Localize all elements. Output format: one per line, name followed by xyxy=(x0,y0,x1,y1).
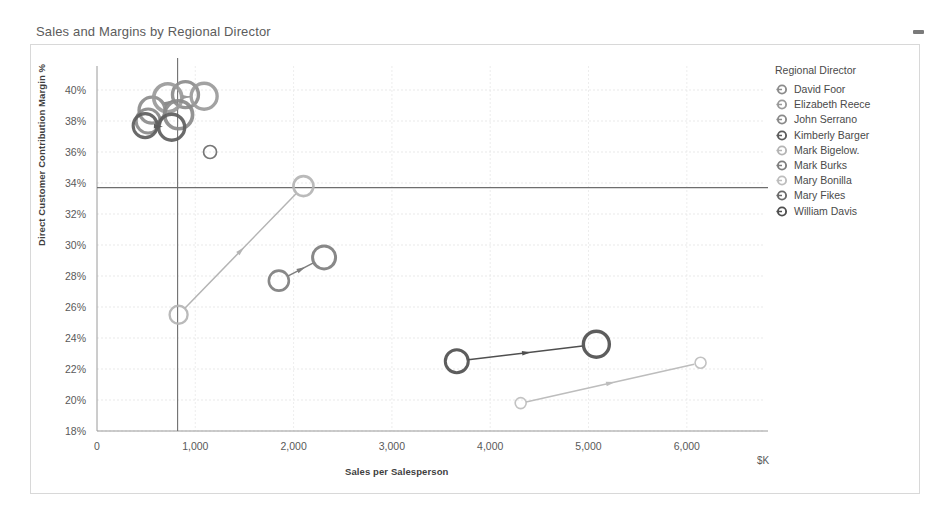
y-axis-tick-label: 20% xyxy=(54,394,86,406)
legend-item-label: David Foor xyxy=(794,83,845,96)
x-axis-tick-label: 2,000 xyxy=(280,440,306,452)
legend-item-label: Kimberly Barger xyxy=(794,129,869,142)
legend-item[interactable]: Elizabeth Reece xyxy=(775,97,915,112)
y-axis-tick-label: 18% xyxy=(54,425,86,437)
legend-item[interactable]: Mark Bigelow. xyxy=(775,143,915,158)
legend: Regional Director David FoorElizabeth Re… xyxy=(775,64,915,219)
x-axis-tick-label: 0 xyxy=(94,440,100,452)
y-axis-tick-label: 40% xyxy=(54,84,86,96)
legend-marker-icon xyxy=(775,113,788,126)
y-axis-tick-label: 26% xyxy=(54,301,86,313)
visualization-container: Sales and Margins by Regional Director 1… xyxy=(0,0,936,531)
x-axis-unit-label: $K xyxy=(757,455,769,466)
legend-item-label: Mark Bigelow. xyxy=(794,144,859,157)
legend-item[interactable]: David Foor xyxy=(775,82,915,97)
y-axis-tick-label: 36% xyxy=(54,146,86,158)
legend-item-label: Mary Fikes xyxy=(794,189,845,202)
legend-item-label: John Serrano xyxy=(794,113,857,126)
legend-marker-icon xyxy=(775,159,788,172)
page-title: Sales and Margins by Regional Director xyxy=(36,24,271,39)
x-axis-tick-label: 5,000 xyxy=(575,440,601,452)
y-axis-tick-label: 22% xyxy=(54,363,86,375)
legend-marker-icon xyxy=(775,98,788,111)
legend-item-list: David FoorElizabeth ReeceJohn SerranoKim… xyxy=(775,82,915,219)
legend-item[interactable]: Kimberly Barger xyxy=(775,128,915,143)
legend-item-label: Elizabeth Reece xyxy=(794,98,870,111)
y-axis-title: Direct Customer Contribution Margin % xyxy=(36,64,47,246)
x-axis-tick-label: 4,000 xyxy=(477,440,503,452)
y-axis-tick-label: 38% xyxy=(54,115,86,127)
legend-marker-icon xyxy=(775,189,788,202)
y-axis-tick-label: 24% xyxy=(54,332,86,344)
legend-item-label: William Davis xyxy=(794,205,857,218)
x-axis-title: Sales per Salesperson xyxy=(345,466,449,477)
legend-marker-icon xyxy=(775,144,788,157)
legend-item[interactable]: Mary Fikes xyxy=(775,188,915,203)
legend-marker-icon xyxy=(775,174,788,187)
legend-title: Regional Director xyxy=(775,64,915,76)
y-axis-tick-label: 34% xyxy=(54,177,86,189)
legend-marker-icon xyxy=(775,83,788,96)
x-axis-tick-label: 6,000 xyxy=(674,440,700,452)
x-axis-tick-label: 1,000 xyxy=(182,440,208,452)
legend-item-label: Mark Burks xyxy=(794,159,847,172)
legend-marker-icon xyxy=(775,205,788,218)
minimize-icon[interactable] xyxy=(913,30,924,34)
legend-item-label: Mary Bonilla xyxy=(794,174,852,187)
y-axis-tick-label: 32% xyxy=(54,208,86,220)
legend-item[interactable]: John Serrano xyxy=(775,112,915,127)
y-axis-tick-label: 28% xyxy=(54,270,86,282)
legend-item[interactable]: William Davis xyxy=(775,204,915,219)
legend-item[interactable]: Mark Burks xyxy=(775,158,915,173)
legend-item[interactable]: Mary Bonilla xyxy=(775,173,915,188)
legend-marker-icon xyxy=(775,129,788,142)
x-axis-tick-label: 3,000 xyxy=(379,440,405,452)
y-axis-tick-label: 30% xyxy=(54,239,86,251)
